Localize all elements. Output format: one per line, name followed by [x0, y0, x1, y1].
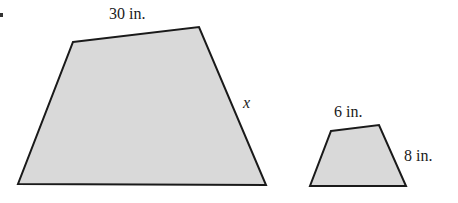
large-trapezoid: [18, 27, 266, 185]
trapezoids-drawing: [0, 0, 458, 203]
small-top-label: 6 in.: [334, 104, 362, 120]
small-side-label: 8 in.: [404, 148, 432, 164]
large-top-label: 30 in.: [109, 6, 145, 22]
similar-trapezoids-figure: 30 in. x 6 in. 8 in.: [0, 0, 458, 203]
large-side-label-x: x: [243, 95, 250, 111]
small-trapezoid: [310, 125, 406, 186]
